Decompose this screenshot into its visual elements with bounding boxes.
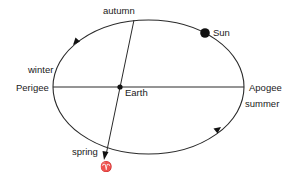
- orbit-diagram: autumn Sun winter Perigee Earth Apogee s…: [0, 0, 304, 176]
- vernal-equinox-symbol: ♈: [100, 160, 112, 173]
- label-spring: spring: [72, 146, 98, 157]
- earth-dot: [117, 84, 122, 89]
- orbit-direction-arrow-lower: [214, 127, 222, 134]
- label-perigee: Perigee: [16, 82, 49, 93]
- label-apogee: Apogee: [249, 82, 282, 93]
- equinox-arrowhead: [103, 151, 109, 160]
- label-sun: Sun: [213, 27, 230, 38]
- label-autumn: autumn: [103, 5, 135, 16]
- label-summer: summer: [245, 98, 279, 109]
- orbit-direction-arrow-upper: [73, 38, 80, 46]
- label-earth: Earth: [125, 87, 148, 98]
- label-winter: winter: [27, 64, 53, 75]
- sun-dot: [200, 28, 210, 38]
